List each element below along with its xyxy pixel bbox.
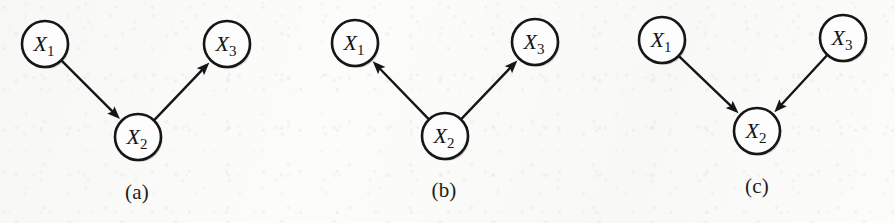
edge-X2-to-X3 bbox=[462, 60, 517, 118]
graph-node-X3[interactable]: X3 bbox=[204, 21, 252, 69]
edge-X2-to-X3 bbox=[155, 62, 209, 119]
graph-node-X1[interactable]: X1 bbox=[639, 17, 687, 65]
graph-node-X2[interactable]: X2 bbox=[422, 113, 470, 161]
graph-panel-b: X1X2X3 bbox=[332, 19, 560, 161]
graph-panel-c: X1X2X3 bbox=[639, 15, 868, 156]
edge-X3-to-X2 bbox=[774, 56, 826, 112]
graph-node-X3[interactable]: X3 bbox=[820, 15, 868, 63]
graph-panel-a: X1X2X3 bbox=[22, 21, 252, 162]
graph-node-X1[interactable]: X1 bbox=[22, 21, 70, 69]
causal-graph-figure: X1X2X3X1X2X3X1X2X3 (a)(b)(c) bbox=[0, 0, 895, 223]
panel-caption-b: (b) bbox=[431, 178, 456, 203]
panel-caption-a: (a) bbox=[125, 180, 149, 205]
graph-node-X1[interactable]: X1 bbox=[332, 20, 380, 68]
graph-node-X2[interactable]: X2 bbox=[734, 108, 782, 156]
edge-X2-to-X1 bbox=[373, 61, 428, 118]
graph-node-X3[interactable]: X3 bbox=[512, 19, 560, 67]
graph-node-X2[interactable]: X2 bbox=[115, 114, 163, 162]
edge-X1-to-X2 bbox=[62, 61, 120, 119]
edge-X1-to-X2 bbox=[680, 57, 739, 113]
panel-caption-c: (c) bbox=[745, 174, 769, 199]
